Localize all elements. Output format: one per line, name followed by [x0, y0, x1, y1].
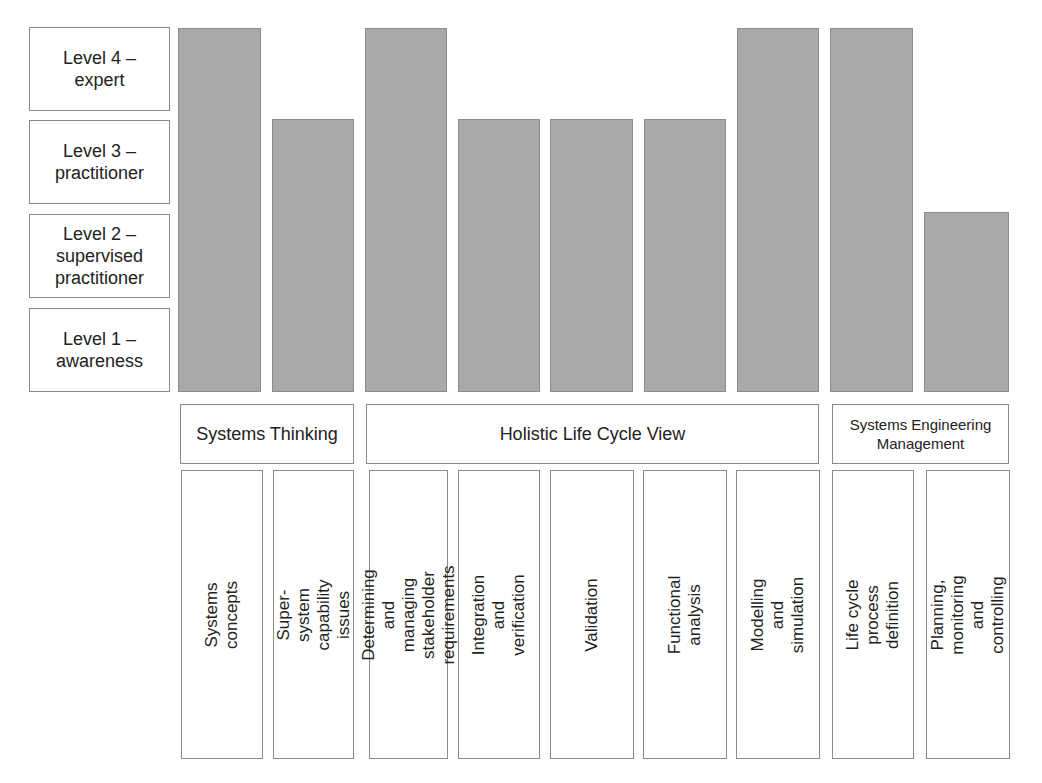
competency-label: Planning, monitoring and controlling	[928, 574, 1008, 656]
competency-stakeholder-requirements: Determining and managing stakeholder req…	[369, 470, 448, 759]
level-2-label: Level 2 – supervised practitioner	[29, 214, 170, 298]
group-se-management: Systems Engineering Management	[832, 404, 1009, 464]
competency-super-system: Super-system capability issues	[273, 470, 354, 759]
level-4-label: Level 4 – expert	[29, 27, 170, 111]
competency-label: Integration and verification	[469, 574, 529, 655]
level-1-label: Level 1 – awareness	[29, 308, 170, 392]
competency-validation: Validation	[550, 470, 634, 759]
competency-integration-verification: Integration and verification	[458, 470, 540, 759]
bar-stakeholder-requirements	[365, 28, 447, 392]
competency-label: Modelling and simulation	[748, 574, 808, 656]
competency-label: Validation	[582, 574, 602, 656]
competency-label: Functional analysis	[665, 574, 705, 656]
level-3-label: Level 3 – practitioner	[29, 120, 170, 204]
bar-validation	[550, 119, 633, 392]
competency-label: Determining and managing stakeholder req…	[359, 565, 459, 664]
competency-life-cycle-process: Life cycle process definition	[832, 470, 914, 759]
group-holistic-life-cycle: Holistic Life Cycle View	[366, 404, 819, 464]
competency-functional-analysis: Functional analysis	[643, 470, 727, 759]
competency-label: Systems concepts	[202, 575, 242, 655]
bar-modelling-simulation	[737, 28, 819, 392]
group-systems-thinking: Systems Thinking	[180, 404, 354, 464]
competency-modelling-simulation: Modelling and simulation	[736, 470, 820, 759]
bar-systems-concepts	[178, 28, 261, 392]
bar-functional-analysis	[644, 119, 726, 392]
bar-integration-verification	[458, 119, 540, 392]
bar-life-cycle-process	[830, 28, 913, 392]
bar-planning-monitoring	[924, 212, 1009, 392]
competency-systems-concepts: Systems concepts	[181, 470, 263, 759]
competency-planning-monitoring: Planning, monitoring and controlling	[926, 470, 1010, 759]
competency-label: Life cycle process definition	[843, 575, 903, 655]
bar-super-system-capability	[272, 119, 354, 392]
competency-label: Super-system capability issues	[274, 575, 354, 654]
